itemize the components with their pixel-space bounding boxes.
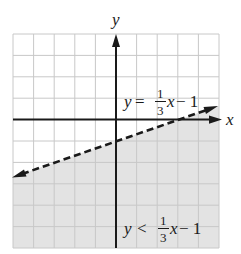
y-axis-label: y — [110, 10, 120, 29]
eq-denominator: 3 — [157, 103, 164, 118]
ineq-tail: − 1 — [179, 219, 201, 238]
ineq-x: x — [169, 219, 178, 238]
ineq-denominator: 3 — [160, 230, 167, 245]
ineq-numerator: 1 — [160, 213, 167, 228]
eq-y: y — [122, 92, 132, 111]
x-axis-label: x — [225, 110, 234, 129]
boundary-equation-label: y = 1 3 x − 1 — [122, 86, 216, 119]
eq-x: x — [166, 92, 175, 111]
inequality-graph: y x y = 1 3 x − 1 y < 1 3 x − 1 — [0, 0, 241, 254]
eq-relation: = — [135, 92, 145, 111]
eq-tail: − 1 — [176, 92, 198, 111]
ineq-relation: < — [137, 219, 147, 238]
ineq-y: y — [122, 219, 132, 238]
eq-numerator: 1 — [157, 86, 164, 101]
